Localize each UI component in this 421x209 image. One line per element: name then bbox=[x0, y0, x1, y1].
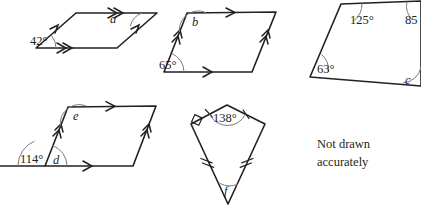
parallelogram-b-left-arrow-marker bbox=[172, 30, 182, 44]
geometry-figure-canvas: 42° a b 65° 125° bbox=[0, 0, 421, 209]
shape-kite-f: 138° f bbox=[191, 105, 265, 204]
parallelogram-de-right-arrow-marker bbox=[141, 124, 151, 138]
parallelogram-a-arc-42 bbox=[51, 35, 56, 48]
angle-label-e: e bbox=[73, 109, 79, 123]
angle-label-114: 114° bbox=[20, 152, 43, 166]
angle-label-d: d bbox=[53, 153, 60, 167]
note-line-1: Not drawn bbox=[317, 137, 371, 151]
angle-label-125: 125° bbox=[350, 13, 374, 27]
angle-label-a: a bbox=[110, 12, 116, 26]
parallelogram-b-outline bbox=[164, 12, 276, 72]
not-drawn-accurately-note: Not drawn accurately bbox=[317, 137, 371, 169]
angle-label-b: b bbox=[192, 15, 198, 29]
angle-label-138: 138° bbox=[213, 111, 237, 125]
shape-quadrilateral-c: 125° 85 63° c bbox=[310, 1, 421, 87]
shape-parallelogram-a: 42° a bbox=[30, 8, 157, 53]
parallelogram-b-right-arrow-marker bbox=[260, 30, 270, 44]
note-line-2: accurately bbox=[317, 155, 369, 169]
angle-label-85: 85 bbox=[405, 13, 418, 27]
angle-label-65: 65° bbox=[159, 58, 177, 72]
kite-f-arc-f bbox=[220, 183, 238, 185]
parallelogram-a-outline bbox=[36, 13, 157, 48]
shape-parallelogram-b: b 65° bbox=[159, 8, 276, 77]
angle-label-63: 63° bbox=[317, 62, 335, 76]
parallelogram-de-left-arrow-marker bbox=[53, 124, 63, 138]
angle-label-42: 42° bbox=[30, 34, 48, 48]
parallelogram-a-arc-a bbox=[130, 13, 142, 26]
shape-parallelogram-de: e 114° d bbox=[0, 102, 156, 171]
angle-label-c: c bbox=[405, 73, 411, 87]
parallelogram-de-outline bbox=[45, 106, 156, 166]
